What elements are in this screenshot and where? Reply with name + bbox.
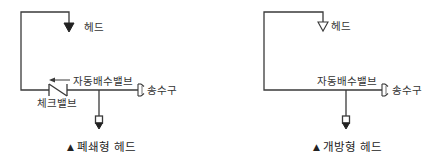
closed-head-diagram	[21, 12, 144, 129]
closed-head-icon	[64, 23, 74, 32]
closed-auto-drain-valve-icon	[96, 116, 103, 129]
open-fire-dept-connection-label: 송수구	[392, 84, 422, 96]
open-head-caption: ▲개방형 헤드	[313, 140, 382, 155]
open-head-caption-text: 개방형 헤드	[323, 140, 382, 154]
open-head-label: 헤드	[331, 20, 351, 32]
closed-fire-dept-connection-label: 송수구	[147, 84, 177, 96]
closed-head-caption-text: 폐쇄형 헤드	[77, 140, 136, 154]
closed-head-caption: ▲폐쇄형 헤드	[67, 140, 136, 155]
triangle-marker-icon: ▲	[67, 142, 74, 152]
check-valve-label: 체크밸브	[37, 97, 77, 109]
check-valve-icon	[47, 84, 67, 96]
open-head-icon	[318, 22, 328, 31]
triangle-marker-icon: ▲	[313, 142, 320, 152]
open-head-diagram	[264, 12, 388, 129]
open-auto-drain-valve-label: 자동배수밸브	[317, 75, 377, 87]
open-auto-drain-valve-icon	[343, 116, 350, 129]
closed-pipe-loop	[21, 12, 69, 90]
closed-auto-drain-valve-label: 자동배수밸브	[73, 75, 133, 87]
open-fire-dept-connection-icon	[382, 84, 388, 96]
flow-arrow-icon	[49, 78, 70, 83]
closed-head-label: 헤드	[84, 21, 104, 33]
closed-fire-dept-connection-icon	[138, 84, 144, 96]
